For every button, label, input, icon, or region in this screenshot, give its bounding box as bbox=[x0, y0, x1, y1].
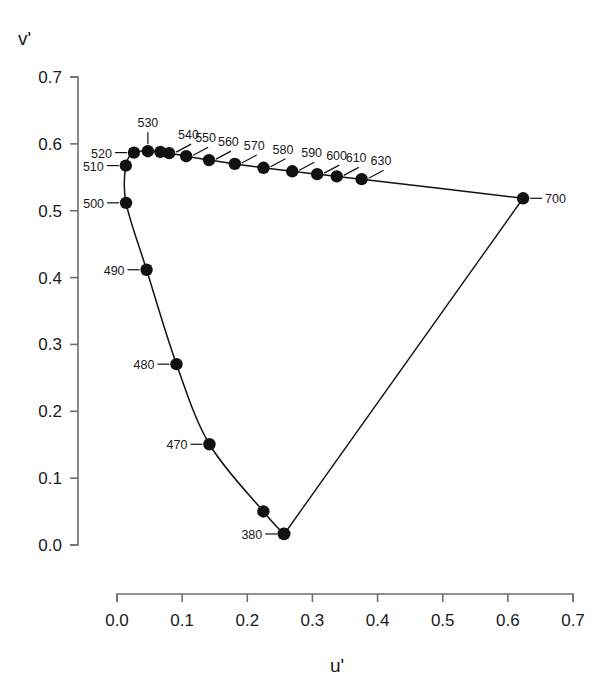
y-axis-tick-label: 0.1 bbox=[38, 469, 62, 488]
wavelength-marker bbox=[286, 165, 298, 177]
wavelength-marker bbox=[180, 150, 192, 162]
x-axis-tick-label: 0.4 bbox=[366, 611, 390, 630]
wavelength-marker bbox=[128, 146, 140, 158]
wavelength-leader-line bbox=[271, 159, 286, 167]
x-axis-tick-label: 0.5 bbox=[431, 611, 455, 630]
wavelength-leader-line bbox=[299, 162, 314, 170]
wavelength-marker bbox=[170, 358, 182, 370]
y-axis-title: v' bbox=[18, 28, 31, 49]
wavelength-label: 590 bbox=[301, 146, 322, 160]
chromaticity-diagram-figure: v' 0.00.10.20.30.40.50.60.7 0.00.10.20.3… bbox=[0, 0, 607, 696]
y-axis-tick-label: 0.0 bbox=[38, 536, 62, 555]
wavelength-marker bbox=[355, 173, 367, 185]
wavelength-marker bbox=[163, 147, 175, 159]
x-axis-tick-labels: 0.00.10.20.30.40.50.60.7 bbox=[105, 611, 585, 630]
wavelength-label: 610 bbox=[346, 151, 367, 165]
wavelength-label: 580 bbox=[273, 143, 294, 157]
wavelength-label: 510 bbox=[83, 160, 104, 174]
wavelength-marker bbox=[229, 158, 241, 170]
x-axis-title: u' bbox=[330, 655, 344, 676]
x-axis-line bbox=[117, 594, 573, 602]
wavelength-label: 700 bbox=[545, 192, 566, 206]
x-axis-tick-label: 0.2 bbox=[235, 611, 259, 630]
wavelength-marker bbox=[311, 168, 323, 180]
wavelength-marker bbox=[257, 162, 269, 174]
wavelength-label: 480 bbox=[134, 358, 155, 372]
x-axis-tick-label: 0.7 bbox=[561, 611, 585, 630]
wavelength-label: 470 bbox=[167, 438, 188, 452]
wavelength-label: 630 bbox=[371, 154, 392, 168]
chromaticity-plot-svg: v' 0.00.10.20.30.40.50.60.7 0.00.10.20.3… bbox=[0, 0, 607, 696]
wavelength-label: 550 bbox=[195, 131, 216, 145]
y-axis-tick-labels: 0.00.10.20.30.40.50.60.7 bbox=[38, 68, 62, 555]
wavelength-leader-line bbox=[369, 170, 384, 178]
wavelength-leader-line bbox=[242, 155, 257, 163]
wavelength-marker bbox=[277, 528, 289, 540]
wavelength-label: 570 bbox=[244, 139, 265, 153]
wavelength-label: 600 bbox=[326, 149, 347, 163]
wavelength-label: 560 bbox=[218, 135, 239, 149]
y-axis-tick-label: 0.4 bbox=[38, 269, 62, 288]
wavelength-markers bbox=[120, 145, 530, 540]
wavelength-marker bbox=[140, 264, 152, 276]
wavelength-label: 500 bbox=[83, 197, 104, 211]
wavelength-leader-line bbox=[193, 147, 208, 155]
wavelength-marker bbox=[331, 170, 343, 182]
x-axis-tick-label: 0.6 bbox=[496, 611, 520, 630]
wavelength-label: 490 bbox=[104, 264, 125, 278]
x-axis-tick-label: 0.1 bbox=[170, 611, 194, 630]
wavelength-label: 530 bbox=[137, 116, 158, 130]
wavelength-marker bbox=[120, 197, 132, 209]
wavelength-marker bbox=[517, 192, 529, 204]
wavelength-leader-line bbox=[216, 151, 231, 159]
wavelength-marker bbox=[203, 154, 215, 166]
wavelength-marker bbox=[120, 159, 132, 171]
line-of-purples bbox=[284, 198, 523, 534]
y-axis-tick-label: 0.2 bbox=[38, 402, 62, 421]
wavelength-label: 520 bbox=[91, 147, 112, 161]
y-axis-line bbox=[70, 77, 78, 545]
y-axis-tick-label: 0.6 bbox=[38, 135, 62, 154]
wavelength-marker bbox=[203, 438, 215, 450]
y-axis-ticks bbox=[70, 77, 78, 545]
wavelength-marker bbox=[257, 505, 269, 517]
y-axis-tick-label: 0.5 bbox=[38, 202, 62, 221]
x-axis-tick-label: 0.3 bbox=[301, 611, 325, 630]
x-axis-tick-label: 0.0 bbox=[105, 611, 129, 630]
wavelength-leader-line bbox=[344, 167, 359, 175]
wavelength-label: 380 bbox=[241, 528, 262, 542]
y-axis-tick-label: 0.3 bbox=[38, 335, 62, 354]
y-axis-tick-label: 0.7 bbox=[38, 68, 62, 87]
x-axis-ticks bbox=[117, 594, 573, 602]
wavelength-marker bbox=[142, 145, 154, 157]
